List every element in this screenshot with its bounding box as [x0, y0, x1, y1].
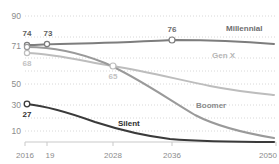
- x-label-2050: 2050: [259, 151, 277, 160]
- value-label-73: 73: [44, 29, 53, 38]
- marker-boomer-2016: [24, 44, 29, 49]
- marker-silent-2016: [24, 101, 30, 107]
- x-label-2036: 2036: [163, 151, 181, 160]
- y-axis-labels: 90 71 50 30 10: [12, 11, 22, 136]
- x-label-2028: 2028: [104, 151, 122, 160]
- y-label-10: 10: [12, 126, 22, 136]
- x-axis-labels: 2016 19 2028 2036 2050: [16, 151, 277, 160]
- y-label-50: 50: [12, 79, 22, 89]
- chart-svg: 90 71 50 30 10 2016 19 2028 2036 2050: [0, 0, 279, 164]
- marker-millennial-2019: [44, 41, 49, 46]
- y-label-30: 30: [12, 100, 22, 110]
- x-label-19: 19: [46, 151, 55, 160]
- marker-millennial-2036: [169, 37, 175, 43]
- series-line-millennial: [27, 40, 274, 45]
- line-chart: 90 71 50 30 10 2016 19 2028 2036 2050: [0, 0, 279, 164]
- x-label-2016: 2016: [16, 151, 34, 160]
- series-line-boomer: [27, 47, 274, 138]
- series-label-millennial: Millennial: [226, 24, 262, 33]
- value-label-27: 27: [23, 110, 32, 119]
- marker-genx-2028: [110, 63, 116, 69]
- series-label-boomer: Boomer: [196, 101, 226, 110]
- value-label-76: 76: [168, 25, 177, 34]
- data-value-labels: 74 73 76 68 65 27: [23, 25, 177, 119]
- value-label-74: 74: [23, 29, 32, 38]
- series-label-genx: Gen X: [212, 51, 236, 60]
- value-label-68: 68: [23, 59, 32, 68]
- y-label-71: 71: [12, 41, 22, 51]
- marker-genx-2016: [24, 50, 29, 55]
- series-label-silent: Silent: [118, 119, 140, 128]
- value-label-65: 65: [109, 72, 118, 81]
- y-label-90: 90: [12, 11, 22, 21]
- series-line-silent: [27, 104, 274, 142]
